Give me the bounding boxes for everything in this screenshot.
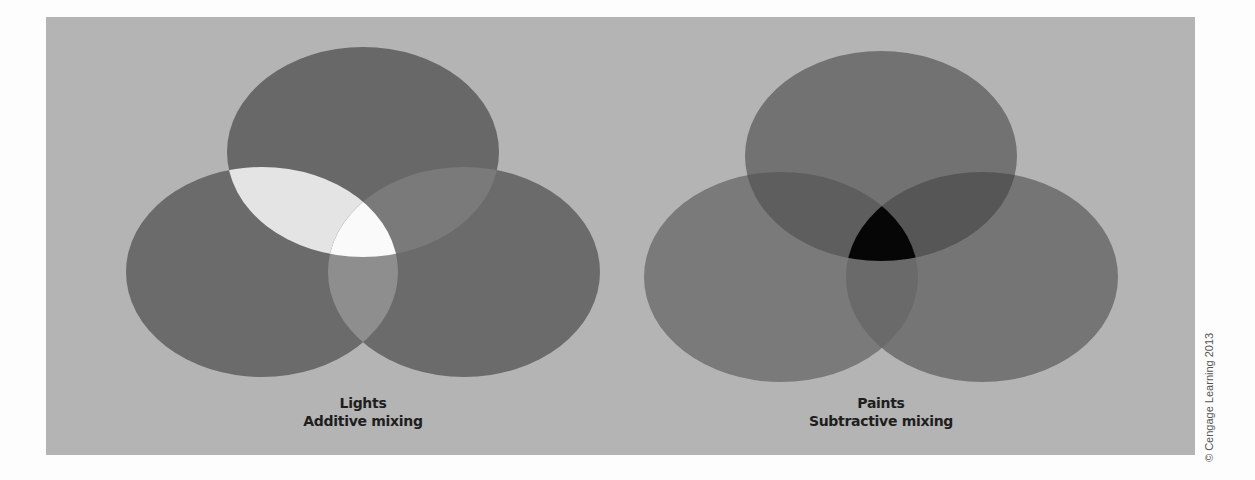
additive-title: Lights bbox=[233, 394, 493, 412]
copyright-credit: © Cengage Learning 2013 bbox=[1203, 333, 1215, 462]
additive-caption: Lights Additive mixing bbox=[233, 394, 493, 430]
subtractive-subtitle: Subtractive mixing bbox=[751, 412, 1011, 430]
subtractive-mixing-diagram bbox=[644, 51, 1118, 382]
additive-mixing-diagram bbox=[126, 47, 600, 377]
color-mixing-diagrams bbox=[0, 0, 1255, 480]
additive-subtitle: Additive mixing bbox=[233, 412, 493, 430]
subtractive-title: Paints bbox=[751, 394, 1011, 412]
subtractive-caption: Paints Subtractive mixing bbox=[751, 394, 1011, 430]
